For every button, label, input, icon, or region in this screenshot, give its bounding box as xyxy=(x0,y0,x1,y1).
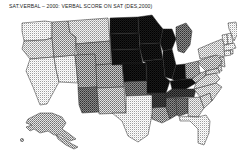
state-washington xyxy=(22,21,52,41)
state-wisconsin xyxy=(160,29,176,51)
state-kansas xyxy=(122,63,147,82)
state-alaska-inset xyxy=(26,113,76,141)
state-north-dakota xyxy=(110,17,139,34)
state-tennessee xyxy=(166,89,196,98)
state-colorado xyxy=(96,63,124,88)
state-new-mexico xyxy=(97,87,126,114)
state-minnesota xyxy=(138,15,163,44)
map-svg xyxy=(0,9,237,160)
state-iowa xyxy=(140,43,163,61)
state-kentucky xyxy=(170,79,196,89)
alaska-island-dot xyxy=(20,138,23,141)
state-nebraska xyxy=(111,49,143,65)
state-south-dakota xyxy=(110,33,140,50)
state-arizona xyxy=(78,87,99,113)
states-layer xyxy=(20,15,237,149)
state-new-york xyxy=(198,39,226,59)
state-utah xyxy=(75,54,97,88)
choropleth-figure: SAT.VERBAL – 2000: VERBAL SCORE ON SAT (… xyxy=(0,0,237,160)
state-michigan xyxy=(176,23,192,53)
state-florida xyxy=(179,115,210,145)
us-choropleth-map xyxy=(0,9,237,160)
state-california xyxy=(26,57,59,105)
state-alabama xyxy=(176,98,188,116)
state-oregon xyxy=(22,38,54,59)
